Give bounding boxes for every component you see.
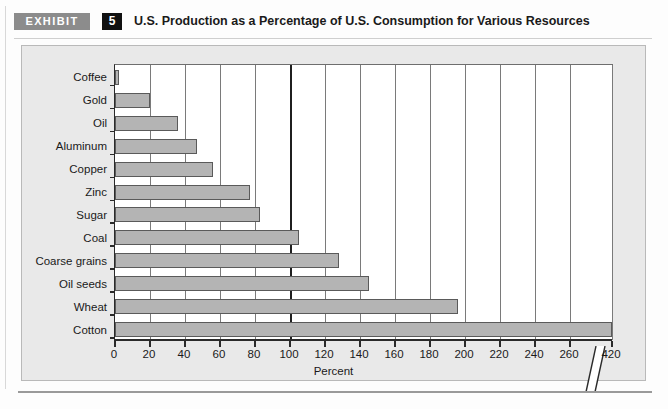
x-tick-160 — [394, 341, 396, 347]
bar-row: Oil seeds — [115, 276, 612, 291]
x-tick-260 — [569, 341, 571, 347]
x-tick-100 — [289, 341, 291, 347]
bar-row: Coal — [115, 230, 612, 245]
x-tick-180 — [429, 341, 431, 347]
bar-label-coal: Coal — [83, 232, 107, 244]
plot-area: CoffeeGoldOilAluminumCopperZincSugarCoal… — [114, 64, 613, 340]
y-axis-tick — [110, 291, 115, 293]
bar-gold — [115, 93, 150, 108]
y-axis-tick — [110, 131, 115, 133]
bar-copper — [115, 162, 213, 177]
bar-label-copper: Copper — [69, 163, 107, 175]
x-tick-label-260: 260 — [559, 348, 578, 360]
bar-row: Copper — [115, 162, 612, 177]
x-tick-label-240: 240 — [524, 348, 543, 360]
x-tick-0 — [114, 341, 116, 347]
x-tick-40 — [184, 341, 186, 347]
y-axis-tick — [110, 245, 115, 247]
x-axis-title: Percent — [22, 365, 645, 377]
bar-label-sugar: Sugar — [76, 209, 107, 221]
x-tick-80 — [254, 341, 256, 347]
bar-label-aluminum: Aluminum — [56, 140, 107, 152]
bar-sugar — [115, 207, 260, 222]
x-tick-420 — [611, 341, 613, 347]
exhibit-label-badge: EXHIBIT — [14, 13, 90, 30]
bar-label-zinc: Zinc — [85, 186, 107, 198]
x-tick-240 — [534, 341, 536, 347]
x-tick-label-0: 0 — [111, 348, 117, 360]
exhibit-header: EXHIBIT 5 U.S. Production as a Percentag… — [14, 6, 652, 36]
x-tick-label-120: 120 — [314, 348, 333, 360]
bar-label-cotton: Cotton — [73, 324, 107, 336]
bar-label-oil: Oil — [93, 117, 107, 129]
bar-row: Coarse grains — [115, 253, 612, 268]
x-tick-label-100: 100 — [279, 348, 298, 360]
x-tick-220 — [499, 341, 501, 347]
x-tick-label-180: 180 — [419, 348, 438, 360]
page-left-rule — [5, 6, 6, 389]
x-tick-label-160: 160 — [384, 348, 403, 360]
y-axis-tick — [110, 268, 115, 270]
x-axis-line — [114, 339, 612, 341]
x-tick-label-140: 140 — [349, 348, 368, 360]
bar-oil — [115, 116, 178, 131]
bar-wheat — [115, 299, 458, 314]
bar-row: Wheat — [115, 299, 612, 314]
y-axis-tick — [110, 200, 115, 202]
bar-row: Gold — [115, 93, 612, 108]
bar-zinc — [115, 185, 250, 200]
x-tick-label-220: 220 — [489, 348, 508, 360]
x-tick-200 — [464, 341, 466, 347]
y-axis-tick — [110, 154, 115, 156]
bar-label-oil-seeds: Oil seeds — [59, 278, 107, 290]
x-tick-label-420: 420 — [601, 348, 620, 360]
bar-label-gold: Gold — [83, 94, 107, 106]
bar-coal — [115, 230, 299, 245]
bar-oil-seeds — [115, 276, 369, 291]
y-axis-tick — [110, 85, 115, 87]
exhibit-number-badge: 5 — [102, 13, 122, 30]
bar-aluminum — [115, 139, 197, 154]
chart-panel: CoffeeGoldOilAluminumCopperZincSugarCoal… — [21, 45, 646, 381]
x-tick-140 — [359, 341, 361, 347]
x-tick-60 — [219, 341, 221, 347]
bar-label-coarse-grains: Coarse grains — [35, 255, 107, 267]
bar-row: Oil — [115, 116, 612, 131]
x-tick-label-60: 60 — [213, 348, 226, 360]
gridline-420 — [612, 65, 613, 340]
bar-row: Cotton — [115, 322, 612, 337]
y-axis-tick — [110, 314, 115, 316]
bar-row: Aluminum — [115, 139, 612, 154]
x-tick-120 — [324, 341, 326, 347]
exhibit-bottom-rule — [18, 391, 652, 393]
bar-row: Coffee — [115, 70, 612, 85]
bar-label-wheat: Wheat — [74, 301, 107, 313]
y-axis-tick — [110, 108, 115, 110]
header-divider — [14, 38, 652, 39]
bar-cotton — [115, 322, 612, 337]
x-tick-label-80: 80 — [248, 348, 261, 360]
x-tick-label-40: 40 — [178, 348, 191, 360]
bar-label-coffee: Coffee — [73, 71, 107, 83]
exhibit-title: U.S. Production as a Percentage of U.S. … — [134, 14, 590, 28]
bar-coffee — [115, 70, 119, 85]
bar-row: Zinc — [115, 185, 612, 200]
x-tick-label-20: 20 — [143, 348, 156, 360]
exhibit-figure: EXHIBIT 5 U.S. Production as a Percentag… — [0, 0, 668, 409]
x-tick-label-200: 200 — [454, 348, 473, 360]
bar-coarse-grains — [115, 253, 339, 268]
bar-row: Sugar — [115, 207, 612, 222]
x-tick-20 — [149, 341, 151, 347]
y-axis-tick — [110, 222, 115, 224]
y-axis-tick — [110, 177, 115, 179]
